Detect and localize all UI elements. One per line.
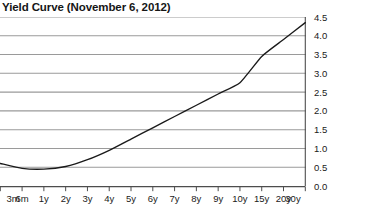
yield-curve-chart: Yield Curve (November 6, 2012) 0.00.51.0… <box>0 0 366 207</box>
x-tick-label: 7y <box>170 194 180 204</box>
x-tick-label: 5y <box>126 194 136 204</box>
y-tick-label: 4.5 <box>314 13 327 23</box>
x-tick-label: 4y <box>104 194 114 204</box>
x-axis-labels: 3m6m1y2y3y4y5y6y7y8y9y10y15y20y30y <box>0 194 306 207</box>
y-tick-label: 1.5 <box>314 125 327 135</box>
y-axis-labels: 0.00.51.01.52.02.53.03.54.04.5 <box>310 17 364 186</box>
x-tick-label: 2y <box>61 194 71 204</box>
y-tick-label: 2.5 <box>314 88 327 98</box>
chart-title: Yield Curve (November 6, 2012) <box>2 1 171 13</box>
y-tick-label: 0.0 <box>314 182 327 192</box>
x-tick-label: 6y <box>148 194 158 204</box>
x-tick-label: 15y <box>254 194 269 204</box>
y-tick-label: 0.5 <box>314 163 327 173</box>
plot-area <box>0 17 306 186</box>
x-tick-label: 1y <box>39 194 49 204</box>
x-tick-label: 10y <box>232 194 247 204</box>
yield-curve-line <box>0 23 305 170</box>
y-tick-label: 4.0 <box>314 31 327 41</box>
y-tick-label: 3.5 <box>314 50 327 60</box>
gridlines <box>0 17 306 167</box>
y-tick-label: 3.0 <box>314 69 327 79</box>
plot-svg <box>0 17 306 186</box>
x-tick-label: 30y <box>285 194 300 204</box>
y-tick-label: 2.0 <box>314 106 327 116</box>
x-tick-label: 8y <box>191 194 201 204</box>
x-axis-ticks <box>0 187 305 192</box>
y-tick-label: 1.0 <box>314 144 327 154</box>
x-tick-label: 3y <box>82 194 92 204</box>
x-tick-label: 9y <box>213 194 223 204</box>
x-tick-label: 6m <box>15 194 28 204</box>
